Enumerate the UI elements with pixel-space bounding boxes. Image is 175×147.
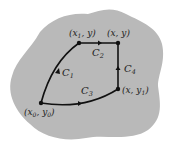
label-x0y0: (x0, y0) (24, 107, 55, 118)
point-x1y (77, 41, 81, 45)
point-x0y0 (39, 101, 43, 105)
label-x1y: (x1, y) (69, 28, 96, 39)
label-xy: (x, y) (107, 28, 130, 38)
label-xy1: (x, y1) (122, 85, 149, 96)
point-xy1 (116, 87, 120, 91)
path-independence-diagram: (x1, y) (x, y) (x, y1) (x0, y0) C1 C2 C3… (0, 0, 175, 147)
point-xy (116, 41, 120, 45)
